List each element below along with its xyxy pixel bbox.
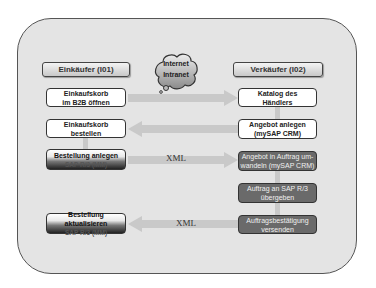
connector-left-1 (83, 138, 88, 149)
step-line: übergeben (261, 193, 294, 202)
step-line: Einkaufskorb (64, 89, 108, 98)
seller-step-transfer-order: Auftrag an SAP R/3 übergeben (238, 183, 317, 203)
step-line: SAP R/3 (MM) (65, 160, 107, 169)
buyer-step-update-order: Bestellung aktualisieren SAP R/3 (MM) (46, 213, 126, 234)
step-line: Auftrag an SAP R/3 (247, 184, 308, 193)
connector-right-3 (275, 203, 280, 215)
buyer-header: Einkäufer (I01) (42, 62, 130, 77)
seller-step-send-confirmation: Auftragsbestätigung versenden (238, 215, 317, 234)
cloud-line-intranet: Intranet (153, 69, 199, 80)
step-line: versenden (261, 225, 294, 234)
buyer-header-label: Einkäufer (I01) (58, 65, 113, 74)
seller-header-label: Verkäufer (I02) (250, 65, 305, 74)
xml-label-order: XML (166, 153, 186, 163)
seller-step-create-offer: Angebot anlegen (mySAP CRM) (238, 119, 317, 139)
step-line: Angebot in Auftrag um- (242, 152, 314, 161)
arrow-left-offer (126, 121, 238, 137)
step-line: Katalog des (258, 89, 298, 98)
buyer-step-order-cart: Einkaufskorb bestellen (46, 119, 126, 138)
step-line: Angebot anlegen (249, 120, 306, 129)
step-line: wandeln (mySAP CRM) (241, 161, 315, 170)
step-line: SAP R/3 (MM) (65, 228, 107, 237)
network-cloud-label: Internet Intranet (153, 58, 199, 80)
connector-right-2 (275, 171, 280, 183)
step-line: Bestellung aktualisieren (47, 210, 125, 228)
seller-step-convert-offer: Angebot in Auftrag um- wandeln (mySAP CR… (238, 151, 317, 171)
step-line: Händlers (263, 98, 293, 107)
buyer-step-create-order: Bestellung anlegen SAP R/3 (MM) (46, 149, 126, 170)
seller-step-catalog: Katalog des Händlers (238, 88, 317, 107)
buyer-step-open-cart: Einkaufskorb im B2B öffnen (46, 88, 126, 107)
step-line: bestellen (71, 129, 101, 138)
xml-label-confirmation: XML (176, 218, 196, 228)
seller-header: Verkäufer (I02) (233, 62, 323, 77)
step-line: Auftragsbestätigung (246, 216, 308, 225)
step-line: im B2B öffnen (62, 98, 109, 107)
step-line: (mySAP CRM) (254, 129, 301, 138)
step-line: Einkaufskorb (64, 120, 108, 129)
cloud-line-internet: Internet (153, 58, 199, 69)
connector-right-1 (275, 107, 280, 119)
step-line: Bestellung anlegen (54, 151, 118, 160)
